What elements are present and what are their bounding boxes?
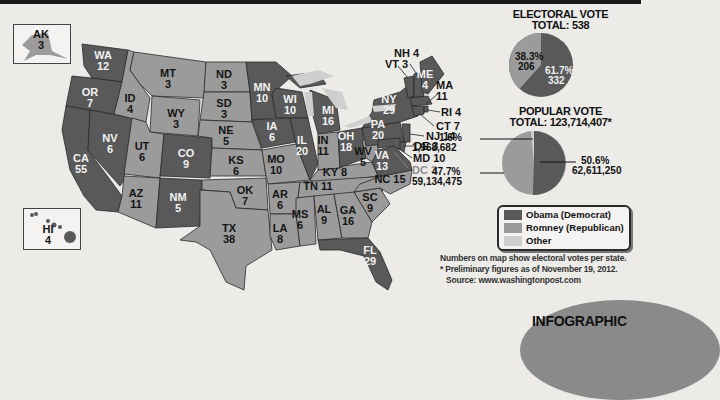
label-oh-votes: 18 xyxy=(340,142,352,153)
footnotes: Numbers on map show electoral votes per … xyxy=(440,253,640,286)
label-vt: VT 3 xyxy=(385,59,408,70)
label-wy-votes: 3 xyxy=(173,119,179,130)
label-ga-votes: 16 xyxy=(342,216,354,227)
label-wi-votes: 10 xyxy=(284,105,296,116)
label-id-votes: 4 xyxy=(127,104,133,115)
label-ms-votes: 6 xyxy=(297,220,303,231)
electoral-obama-votes: 332 xyxy=(548,76,565,86)
note-source: Source: www.washingtonpost.com xyxy=(440,275,640,286)
label-or-votes: 7 xyxy=(87,98,93,109)
legend-label-other: Other xyxy=(526,235,551,246)
label-ut-votes: 6 xyxy=(139,152,145,163)
legend-swatch-romney xyxy=(504,223,522,233)
label-il-votes: 20 xyxy=(296,146,308,157)
label-nv-votes: 6 xyxy=(107,144,113,155)
popular-obama-votes: 62,611,250 xyxy=(572,166,622,176)
label-sd-votes: 3 xyxy=(221,109,227,120)
label-az-votes: 11 xyxy=(130,199,142,210)
legend-item-other: Other xyxy=(504,234,629,247)
legend-swatch-other xyxy=(504,236,522,246)
label-ca-votes: 55 xyxy=(75,164,87,175)
label-ma-votes: 11 xyxy=(436,91,448,102)
label-ri: RI 4 xyxy=(441,107,461,118)
state-ri xyxy=(424,106,428,112)
label-ar-votes: 6 xyxy=(277,200,283,211)
infographic-label: INFOGRAPHIC xyxy=(532,313,627,329)
label-tx-votes: 38 xyxy=(223,234,235,245)
label-va-votes: 13 xyxy=(376,161,388,172)
label-mn-votes: 10 xyxy=(256,93,268,104)
label-sc-votes: 9 xyxy=(367,203,373,214)
us-electoral-map: AK 3 HI 4 WA 12 OR 7 CA 55 NV 6 ID 4 MT … xyxy=(0,0,480,327)
popular-other-votes: 1,968,682 xyxy=(412,143,457,153)
label-ky: KY 8 xyxy=(323,167,347,178)
popular-romney-votes: 59,134,475 xyxy=(412,177,462,187)
label-tn: TN 11 xyxy=(303,181,332,192)
label-md: MD 10 xyxy=(413,153,445,164)
electoral-romney-votes: 206 xyxy=(518,62,535,72)
label-ne-votes: 5 xyxy=(223,136,229,147)
label-mt-votes: 3 xyxy=(165,79,171,90)
label-in-votes: 11 xyxy=(317,146,329,157)
label-nd-votes: 3 xyxy=(221,80,227,91)
legend-item-obama: Obama (Democrat) xyxy=(504,208,629,221)
label-la-votes: 8 xyxy=(277,234,283,245)
label-hi-votes: 4 xyxy=(45,235,51,246)
label-ny-votes: 29 xyxy=(383,105,395,116)
label-wv-votes: 5 xyxy=(360,157,366,168)
label-nc: NC 15 xyxy=(374,174,405,185)
label-co-votes: 9 xyxy=(183,159,189,170)
electoral-total: TOTAL: 538 xyxy=(480,19,641,31)
note-electoral-votes: Numbers on map show electoral votes per … xyxy=(440,253,640,264)
label-pa-votes: 20 xyxy=(372,130,384,141)
legend: Obama (Democrat) Romney (Republican) Oth… xyxy=(497,205,631,251)
label-fl-votes: 29 xyxy=(364,256,376,267)
state-fl xyxy=(318,238,392,290)
legend-swatch-obama xyxy=(504,210,522,220)
label-nm-votes: 5 xyxy=(175,203,181,214)
label-me-votes: 4 xyxy=(422,80,428,91)
label-ok-votes: 7 xyxy=(242,196,248,207)
label-ks-votes: 6 xyxy=(233,166,239,177)
note-preliminary: * Preliminary figures as of November 19,… xyxy=(440,264,640,275)
popular-total: TOTAL: 123,714,407* xyxy=(480,116,641,128)
label-mo-votes: 10 xyxy=(270,165,282,176)
label-ak-votes: 3 xyxy=(38,40,44,51)
state-ct xyxy=(412,106,424,116)
label-al-votes: 9 xyxy=(321,215,327,226)
label-mi-votes: 16 xyxy=(322,116,334,127)
label-nh: NH 4 xyxy=(394,48,419,59)
legend-item-romney: Romney (Republican) xyxy=(504,221,629,234)
legend-label-obama: Obama (Democrat) xyxy=(526,209,611,220)
legend-label-romney: Romney (Republican) xyxy=(526,222,624,233)
label-wa-votes: 12 xyxy=(97,61,109,72)
label-ia-votes: 6 xyxy=(269,132,275,143)
state-ma xyxy=(410,96,432,106)
